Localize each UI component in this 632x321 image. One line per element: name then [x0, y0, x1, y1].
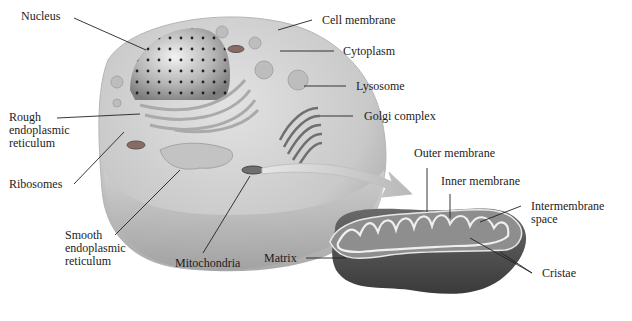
small-mitochondrion	[127, 141, 145, 149]
label-cytoplasm: Cytoplasm	[343, 45, 395, 58]
label-outer-membrane: Outer membrane	[414, 147, 495, 160]
label-smooth-er: Smooth endoplasmic reticulum	[65, 229, 126, 268]
label-cell-membrane: Cell membrane	[322, 14, 396, 27]
label-rough-er: Rough endoplasmic reticulum	[9, 111, 70, 150]
label-inner-membrane: Inner membrane	[441, 175, 520, 188]
highlighted-mitochondrion	[242, 166, 264, 174]
label-golgi-complex: Golgi complex	[364, 110, 436, 123]
label-line: reticulum	[9, 137, 70, 150]
label-matrix: Matrix	[264, 252, 297, 265]
label-cristae: Cristae	[542, 267, 576, 280]
label-line: reticulum	[65, 255, 126, 268]
label-intermembrane-space: Intermembrane space	[531, 200, 604, 226]
small-mitochondrion	[228, 46, 244, 53]
cell-diagram: Nucleus Cell membrane Cytoplasm Lysosome…	[0, 0, 632, 321]
label-nucleus: Nucleus	[21, 10, 60, 23]
label-line: space	[531, 213, 604, 226]
label-ribosomes: Ribosomes	[9, 178, 62, 191]
diagram-artwork	[0, 0, 632, 321]
label-lysosome: Lysosome	[356, 80, 405, 93]
label-mitochondria: Mitochondria	[175, 257, 240, 270]
mitochondrion-detail	[330, 209, 526, 294]
